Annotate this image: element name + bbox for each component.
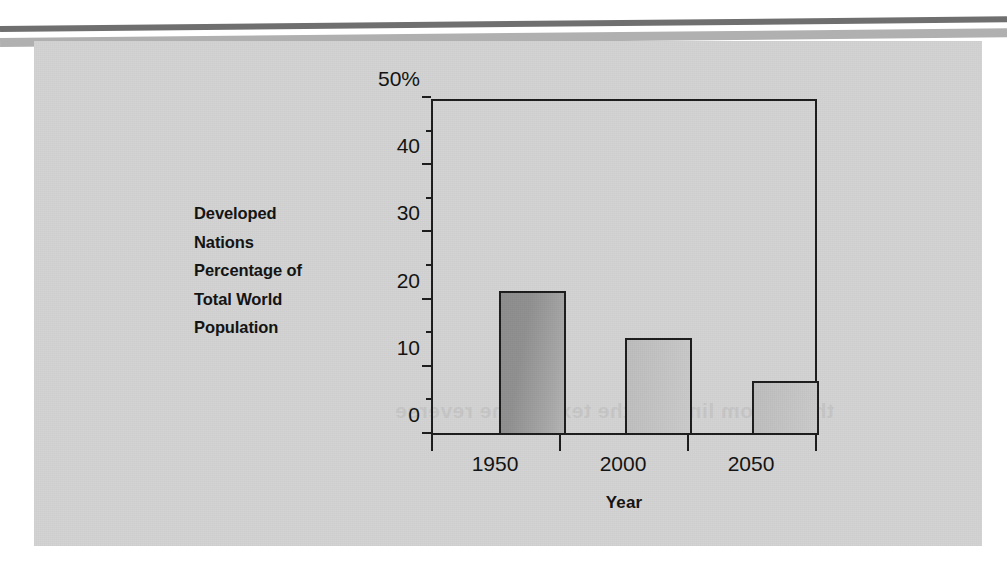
x-tick-label-2000: 2000 [600,453,647,474]
y-tick-mark-10 [422,365,431,367]
y-tick-mark-20 [422,298,431,300]
y-tick-mark-30 [422,230,431,232]
y-tick-label-40: 40 [397,135,420,156]
x-tick-boundary-0 [431,435,433,451]
y-tick-mark-50 [422,96,431,98]
y-axis-title: Developed Nations Percentage of Total Wo… [194,199,374,342]
y-tick-label-20: 20 [397,269,420,290]
y-axis-title-line-1: Developed [194,199,374,228]
figure-panel: the bottom lines of the text on the reve… [34,41,982,546]
x-tick-boundary-1 [559,435,561,451]
y-axis-title-line-5: Population [194,313,374,342]
y-tick-label-50: 50% [378,68,420,89]
y-tick-minor-5 [426,398,431,400]
x-tick-label-1950: 1950 [472,453,519,474]
plot-area: 0 10 20 30 40 50% 1950 2000 2050 Year [431,99,817,435]
bar-2050 [752,381,819,435]
y-axis-title-line-3: Percentage of [194,256,374,285]
bar-2000 [625,338,692,435]
x-tick-boundary-2 [687,435,689,451]
y-tick-label-30: 30 [397,202,420,223]
y-tick-minor-35 [426,197,431,199]
y-tick-mark-0 [422,432,431,434]
y-tick-mark-40 [422,163,431,165]
y-tick-minor-25 [426,264,431,266]
bar-1950 [499,291,566,436]
y-tick-minor-15 [426,331,431,333]
x-axis-title: Year [606,493,643,513]
y-axis-title-line-2: Nations [194,228,374,257]
y-tick-label-0: 0 [408,404,420,425]
y-tick-label-10: 10 [397,336,420,357]
x-tick-label-2050: 2050 [728,453,775,474]
y-axis-title-line-4: Total World [194,285,374,314]
x-tick-boundary-3 [815,435,817,451]
y-tick-minor-45 [426,130,431,132]
